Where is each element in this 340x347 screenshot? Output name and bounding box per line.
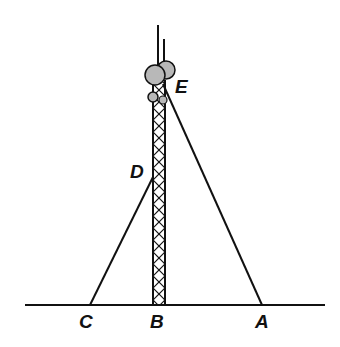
dish-icon	[148, 92, 158, 102]
dish-icon	[159, 96, 167, 104]
dish-icon	[145, 65, 165, 85]
label-b: B	[150, 311, 164, 332]
tower	[153, 80, 165, 305]
cable-e-to-a	[163, 84, 262, 305]
label-a: A	[254, 311, 269, 332]
label-d: D	[130, 161, 144, 182]
tower-diagram: E D C B A	[0, 0, 340, 347]
cable-d-to-c	[90, 177, 153, 305]
antenna-masts	[158, 25, 164, 66]
label-e: E	[175, 76, 189, 97]
dish-icons	[145, 61, 175, 104]
label-c: C	[79, 311, 93, 332]
